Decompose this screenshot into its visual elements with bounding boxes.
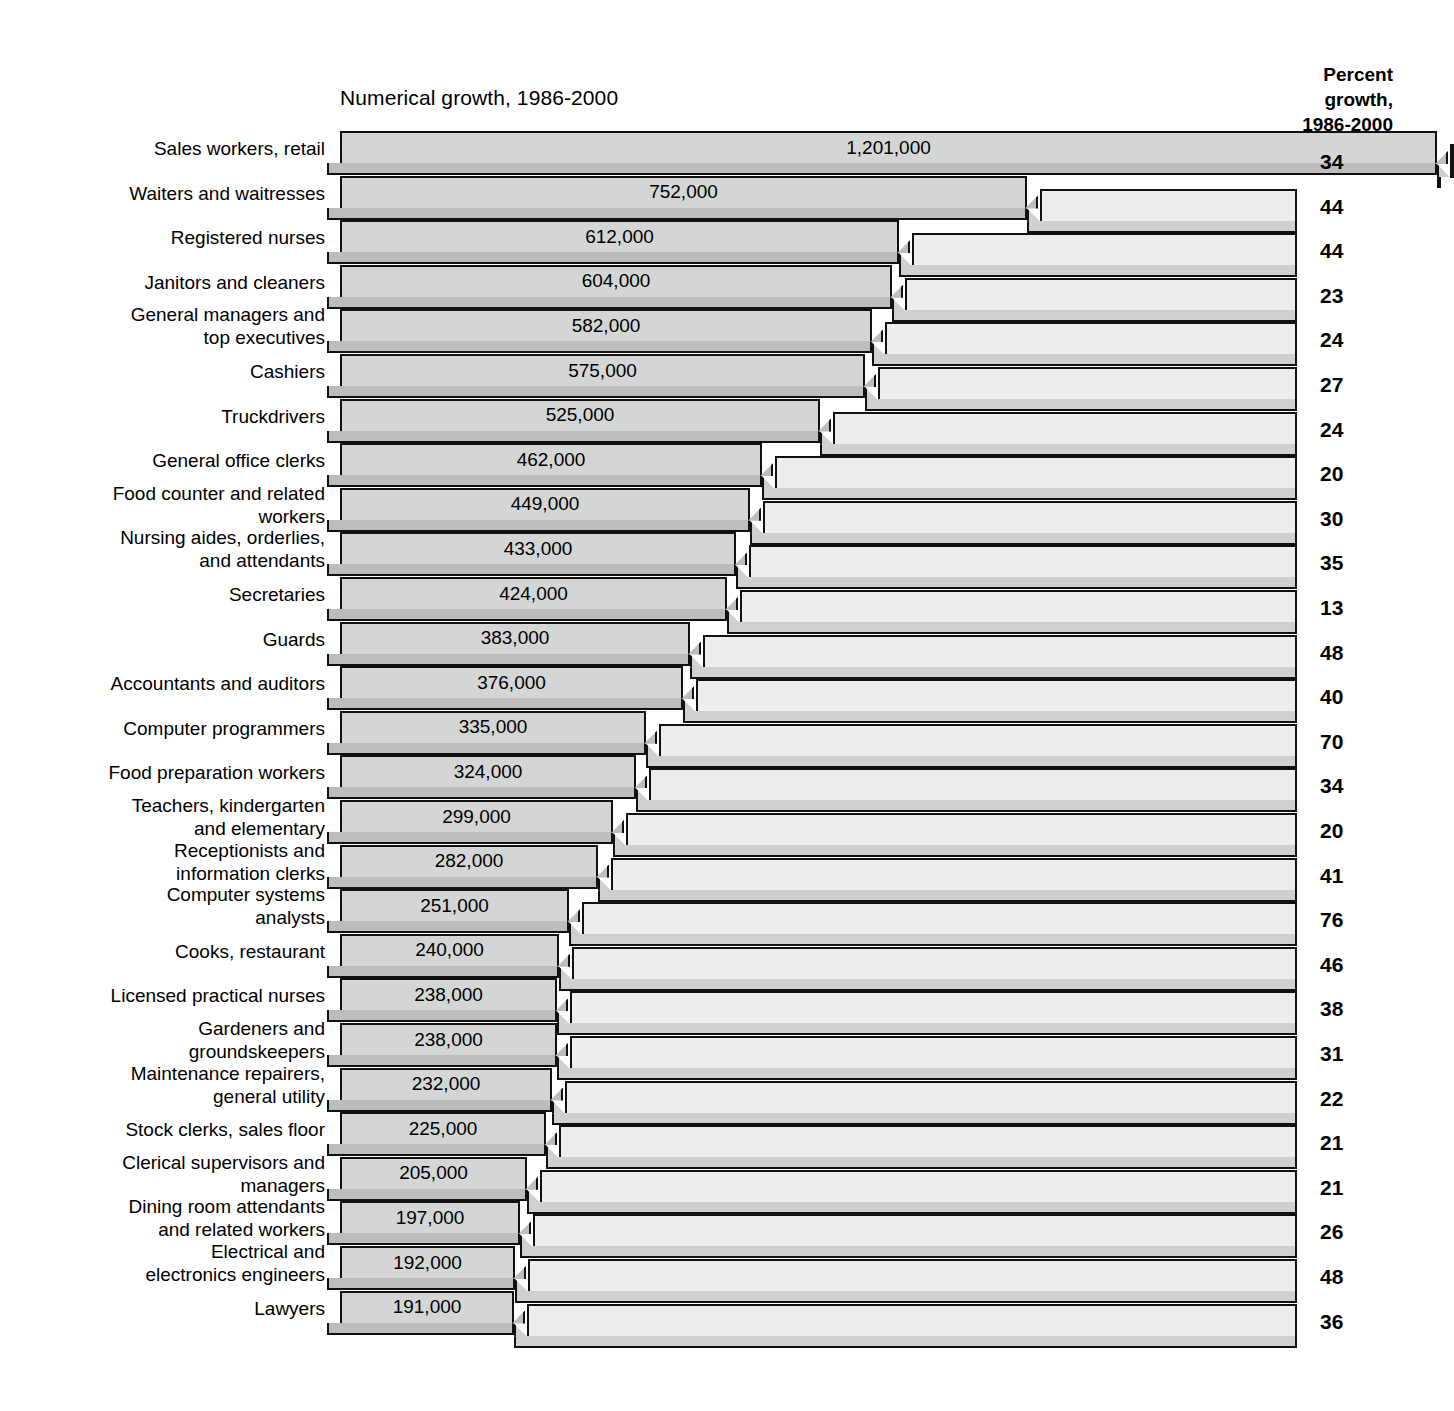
numeric-bar-value: 324,000 <box>454 762 523 781</box>
percent-bar-side <box>1027 221 1297 233</box>
numeric-bar-side <box>327 386 865 398</box>
percent-bar-side <box>557 1068 1297 1080</box>
numeric-bar-value: 582,000 <box>572 316 641 335</box>
numeric-bar-side <box>327 564 736 576</box>
percent-bar-side <box>569 934 1297 946</box>
numeric-bar-side <box>327 1189 527 1201</box>
percent-bar-bevel <box>727 610 740 623</box>
percent-bar-bevel <box>865 387 878 400</box>
percent-bar-bevel <box>636 788 649 801</box>
percent-bar-side <box>636 800 1297 812</box>
numeric-bar-side <box>327 1055 557 1067</box>
percent-value: 21 <box>1320 1132 1343 1153</box>
numeric-bar-face: 232,000 <box>340 1068 552 1102</box>
numeric-bar-side <box>327 654 690 666</box>
percent-bar-side <box>736 577 1297 589</box>
category-label: Registered nurses <box>171 226 325 249</box>
percent-bar-side <box>820 444 1297 456</box>
percent-bar-side <box>1437 176 1441 188</box>
percent-bar-face <box>570 1036 1297 1070</box>
percent-bar-bevel <box>527 1190 540 1203</box>
percent-bar-face <box>878 367 1297 401</box>
category-label: Guards <box>263 628 325 651</box>
percent-value: 24 <box>1320 419 1343 440</box>
percent-bar-side <box>514 1336 1297 1348</box>
percent-value: 44 <box>1320 196 1343 217</box>
percent-bar-bevel <box>552 1101 565 1114</box>
numeric-bar-face: 197,000 <box>340 1201 520 1235</box>
numeric-bar-side <box>327 1144 546 1156</box>
numeric-bar-side <box>327 208 1027 220</box>
percent-bar-face <box>626 813 1297 847</box>
numeric-bar-side <box>327 698 683 710</box>
numeric-bar-face: 604,000 <box>340 265 892 299</box>
numeric-bar-face: 299,000 <box>340 800 613 834</box>
numeric-bar-value: 449,000 <box>511 494 580 513</box>
percent-bar-face <box>1040 189 1297 223</box>
percent-value: 48 <box>1320 642 1343 663</box>
numeric-bar-side <box>327 609 727 621</box>
numeric-bar-face: 376,000 <box>340 666 683 700</box>
percent-bar-face <box>696 679 1297 713</box>
percent-bar-side <box>872 354 1297 366</box>
percent-bar-side <box>557 1023 1297 1035</box>
numeric-bar-value: 240,000 <box>415 940 484 959</box>
percent-bar-bevel <box>559 967 572 980</box>
percent-bar-bevel <box>598 878 611 891</box>
numeric-bar-value: 383,000 <box>481 628 550 647</box>
numeric-bar-side <box>327 341 872 353</box>
percent-bar-face <box>528 1259 1297 1293</box>
numeric-bar-face: 191,000 <box>340 1291 514 1325</box>
percent-value: 70 <box>1320 731 1343 752</box>
numeric-bar-side <box>327 832 613 844</box>
percent-bar-bevel <box>820 432 833 445</box>
percent-bar-bevel <box>515 1279 528 1292</box>
numeric-bar-value: 604,000 <box>582 271 651 290</box>
percent-value: 13 <box>1320 597 1343 618</box>
percent-bar-bevel <box>736 565 749 578</box>
numeric-bar-value: 462,000 <box>517 450 586 469</box>
percent-bar-side <box>520 1246 1297 1258</box>
numeric-bar-face: 449,000 <box>340 488 750 522</box>
percent-bar-side <box>683 711 1297 723</box>
numeric-bar-side <box>327 966 559 978</box>
category-label: Gardeners and groundskeepers <box>189 1017 325 1063</box>
numeric-bar-side <box>327 1233 520 1245</box>
numeric-bar-side <box>327 520 750 532</box>
category-label: Nursing aides, orderlies, and attendants <box>120 526 325 572</box>
percent-bar-side <box>865 399 1297 411</box>
numeric-bar-side <box>327 877 598 889</box>
percent-bar-bevel <box>514 1324 527 1337</box>
numeric-bar-face: 752,000 <box>340 176 1027 210</box>
percent-bar-face <box>659 724 1297 758</box>
percent-bar-side <box>727 622 1297 634</box>
percent-bar-bevel <box>750 521 763 534</box>
category-label: Lawyers <box>254 1297 325 1320</box>
numeric-bar-value: 376,000 <box>477 673 546 692</box>
category-label: Sales workers, retail <box>154 137 325 160</box>
numeric-bar-face: 383,000 <box>340 622 690 656</box>
percent-bar-bevel <box>892 298 905 311</box>
numeric-bar-face: 282,000 <box>340 845 598 879</box>
percent-value: 21 <box>1320 1177 1343 1198</box>
category-label: Receptionists and information clerks <box>174 839 325 885</box>
percent-bar-side <box>598 890 1297 902</box>
category-label: Truckdrivers <box>221 405 325 428</box>
numeric-bar-value: 238,000 <box>414 1030 483 1049</box>
percent-bar-bevel <box>899 253 912 266</box>
numeric-bar-face: 238,000 <box>340 1023 557 1057</box>
percent-bar-face <box>912 233 1297 267</box>
numeric-bar-side <box>327 431 820 443</box>
percent-bar-side <box>750 533 1297 545</box>
category-label: Computer systems analysts <box>167 883 325 929</box>
numeric-bar-side <box>327 475 762 487</box>
percent-bar-bevel <box>613 833 626 846</box>
percent-bar-side <box>899 265 1297 277</box>
percent-bar-face <box>565 1081 1297 1115</box>
numeric-bar-value: 251,000 <box>420 896 489 915</box>
numeric-bar-value: 232,000 <box>412 1074 481 1093</box>
numeric-bar-face: 251,000 <box>340 889 569 923</box>
percent-bar-side <box>527 1202 1297 1214</box>
percent-bar-face <box>649 768 1297 802</box>
